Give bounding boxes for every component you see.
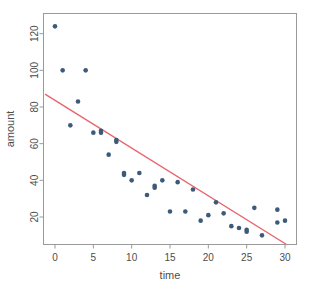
data-point (175, 180, 180, 185)
data-point (114, 138, 119, 143)
data-point (91, 130, 96, 135)
data-point (183, 209, 188, 214)
data-point (60, 68, 65, 73)
data-point (99, 130, 104, 135)
data-point (214, 200, 219, 205)
y-tick-label: 100 (29, 62, 40, 79)
plot-canvas: 20406080100120 051015202530 time amount (0, 0, 315, 293)
y-axis-label: amount (4, 111, 16, 148)
x-axis-label: time (160, 269, 181, 281)
data-point (129, 178, 134, 183)
data-point (76, 99, 81, 104)
x-tick-label: 25 (241, 252, 253, 263)
data-point (122, 171, 127, 176)
y-tick-label: 20 (29, 211, 40, 223)
data-point (244, 228, 249, 233)
data-point (275, 207, 280, 212)
scatter-plot-figure: 20406080100120 051015202530 time amount (0, 0, 315, 293)
y-tick-label: 40 (29, 174, 40, 186)
data-point (206, 213, 211, 218)
data-point (229, 224, 234, 229)
figure-background (0, 0, 315, 293)
x-tick-label: 0 (52, 252, 58, 263)
data-point (137, 171, 142, 176)
y-tick-label: 60 (29, 138, 40, 150)
data-point (283, 218, 288, 223)
data-point (221, 211, 226, 216)
data-point (198, 218, 203, 223)
y-tick-label: 120 (29, 25, 40, 42)
data-point (152, 184, 157, 189)
data-point (191, 187, 196, 192)
data-point (53, 24, 58, 29)
data-point (83, 68, 88, 73)
x-tick-label: 10 (126, 252, 138, 263)
x-tick-label: 5 (91, 252, 97, 263)
data-point (168, 209, 173, 214)
data-point (275, 220, 280, 225)
data-point (145, 193, 150, 198)
x-tick-label: 30 (279, 252, 291, 263)
data-point (237, 226, 242, 231)
data-point (68, 123, 73, 128)
data-point (106, 152, 111, 157)
data-point (252, 206, 257, 211)
x-tick-label: 20 (203, 252, 215, 263)
data-point (160, 178, 165, 183)
x-tick-label: 15 (164, 252, 176, 263)
y-tick-label: 80 (29, 101, 40, 113)
data-point (260, 233, 265, 238)
